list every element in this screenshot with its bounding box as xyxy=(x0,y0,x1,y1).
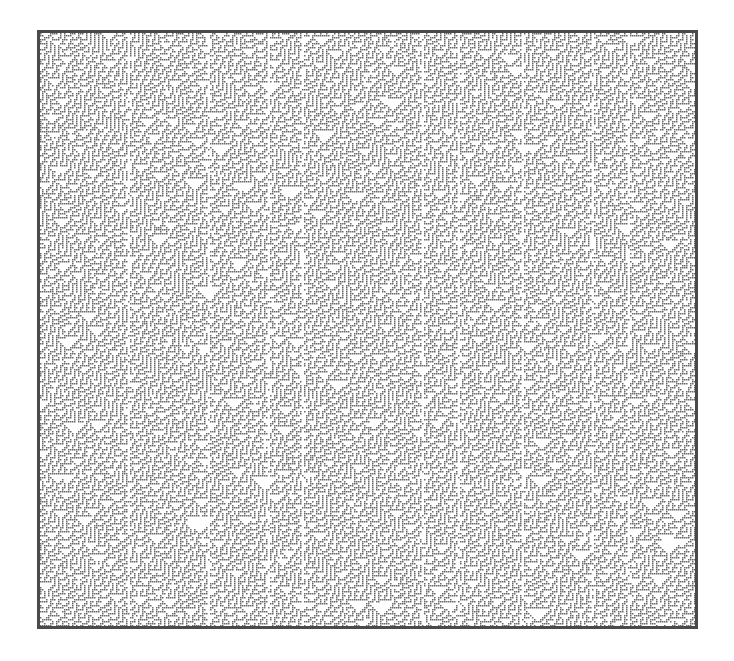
ca-pattern-frame xyxy=(37,30,698,629)
cellular-automaton-canvas xyxy=(40,33,695,626)
